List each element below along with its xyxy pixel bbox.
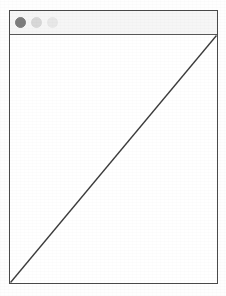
diagonal-line	[11, 36, 217, 283]
application-window	[9, 10, 218, 284]
minimize-button-icon[interactable]	[31, 17, 42, 28]
close-button-icon[interactable]	[15, 17, 26, 28]
content-canvas	[10, 35, 217, 283]
window-controls	[15, 17, 58, 28]
window-titlebar[interactable]	[10, 11, 217, 35]
maximize-button-icon[interactable]	[47, 17, 58, 28]
page-root	[0, 0, 226, 296]
window-content-area[interactable]	[10, 35, 217, 283]
